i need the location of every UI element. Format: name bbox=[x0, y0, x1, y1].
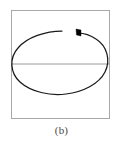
start-point-marker bbox=[76, 29, 81, 36]
panel-caption: (b) bbox=[0, 124, 123, 137]
figure-panel: (b) bbox=[0, 0, 123, 150]
